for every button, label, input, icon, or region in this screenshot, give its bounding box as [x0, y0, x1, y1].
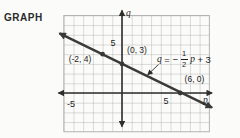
point-6-0	[178, 91, 183, 96]
x-axis-tick-neg5: -5	[62, 100, 80, 109]
equation-rhs-var: p	[190, 55, 195, 65]
x-axis-label: p	[203, 96, 208, 106]
equation-fraction: 1 2	[181, 50, 188, 69]
equation-fraction-numerator: 1	[181, 50, 188, 60]
equation-lhs-var: q	[157, 55, 162, 65]
point-label-0-3: (0, 3)	[124, 46, 150, 55]
figure-heading: GRAPH	[4, 13, 43, 23]
line-equation: q = − 1 2 p + 3	[157, 50, 211, 69]
point-0-3	[120, 62, 125, 67]
y-axis-tick-5: 5	[107, 39, 119, 48]
equation-fraction-denominator: 2	[182, 60, 186, 69]
equation-rhs-tail: + 3	[197, 55, 210, 65]
point-label-neg2-4: (-2, 4)	[59, 55, 101, 64]
y-axis-label: q	[126, 9, 131, 19]
x-axis-tick-5: 5	[160, 97, 172, 106]
point-label-6-0: (6, 0)	[181, 75, 208, 84]
graph-figure: GRAPH q p 5 5 -5 (-2, 4) (0, 3) (6, 0) q…	[0, 0, 240, 138]
equation-relation: = −	[164, 55, 178, 65]
